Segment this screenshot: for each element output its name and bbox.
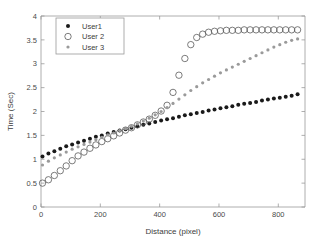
data-point	[205, 29, 211, 35]
data-point	[124, 127, 127, 130]
series-user1	[40, 92, 299, 158]
legend-label: User1	[82, 22, 102, 31]
x-tick-label: 200	[94, 210, 107, 219]
y-tick-label: 3.5	[27, 36, 37, 45]
legend-marker	[66, 45, 69, 48]
data-point	[165, 106, 168, 109]
data-point	[195, 111, 199, 115]
data-point	[171, 102, 174, 105]
data-point	[207, 109, 211, 113]
data-point	[194, 34, 200, 40]
data-point	[154, 113, 157, 116]
y-tick-label: 1.5	[27, 131, 37, 140]
legend-marker	[66, 24, 70, 28]
data-point	[106, 133, 109, 136]
data-point	[272, 45, 275, 48]
data-point	[76, 141, 80, 145]
data-point	[236, 103, 240, 107]
data-point	[177, 115, 181, 119]
data-point	[296, 37, 299, 40]
data-point	[195, 85, 198, 88]
data-point	[93, 142, 99, 148]
data-point	[171, 116, 175, 120]
data-point	[41, 163, 44, 166]
data-point	[183, 93, 186, 96]
y-tick-label: 4	[33, 12, 37, 21]
data-point	[63, 163, 69, 169]
series-user-3	[41, 37, 299, 166]
data-point	[64, 144, 68, 148]
data-point	[217, 28, 223, 34]
data-point	[153, 120, 157, 124]
data-point	[100, 136, 103, 139]
x-tick-label: 800	[272, 210, 285, 219]
data-point	[248, 101, 252, 105]
data-point	[99, 138, 105, 144]
data-point	[266, 98, 270, 102]
data-point	[290, 39, 293, 42]
data-point	[213, 108, 217, 112]
data-point	[70, 142, 74, 146]
data-point	[241, 27, 247, 33]
data-point	[266, 48, 269, 51]
chart-svg: 020040060080000.511.522.533.54 Distance …	[0, 0, 320, 245]
y-tick-label: 2	[33, 107, 37, 116]
data-point	[283, 27, 289, 33]
data-point	[53, 156, 56, 159]
data-point	[235, 27, 241, 33]
data-point	[170, 89, 176, 95]
data-point	[254, 54, 257, 57]
y-axis-title: Time (Sec)	[6, 92, 15, 131]
x-tick-label: 400	[153, 210, 166, 219]
data-point	[201, 81, 204, 84]
data-point	[76, 145, 79, 148]
data-point	[207, 78, 210, 81]
data-point	[159, 119, 163, 123]
y-tick-label: 1	[33, 155, 37, 164]
data-point	[65, 150, 68, 153]
legend-label: User 3	[82, 43, 104, 52]
legend[interactable]: User1User 2User 3	[56, 18, 124, 54]
data-point	[58, 147, 62, 151]
data-point	[265, 27, 271, 33]
data-point	[142, 119, 145, 122]
data-point	[88, 140, 91, 143]
data-point	[82, 143, 85, 146]
data-point	[219, 71, 222, 74]
data-point	[237, 63, 240, 66]
data-point	[177, 97, 180, 100]
data-point	[243, 60, 246, 63]
data-point	[47, 160, 50, 163]
data-point	[176, 72, 182, 78]
data-point	[82, 139, 86, 143]
data-point	[46, 152, 50, 156]
data-point	[148, 117, 151, 120]
data-point	[223, 27, 229, 33]
data-point	[189, 89, 192, 92]
data-point	[225, 68, 228, 71]
data-point	[211, 28, 217, 34]
data-point	[45, 177, 51, 183]
data-point	[71, 148, 74, 151]
data-point	[136, 122, 139, 125]
data-point	[296, 92, 300, 96]
data-point	[189, 112, 193, 116]
data-point	[94, 138, 97, 141]
data-point	[40, 154, 44, 158]
data-point	[271, 27, 277, 33]
y-tick-label: 2.5	[27, 83, 37, 92]
data-point	[87, 145, 93, 151]
data-point	[75, 153, 81, 159]
data-point	[277, 27, 283, 33]
data-point	[259, 27, 265, 33]
data-point	[284, 95, 288, 99]
data-point	[88, 137, 92, 141]
data-point	[112, 131, 115, 134]
data-point	[260, 51, 263, 54]
data-point	[288, 27, 294, 33]
data-point	[294, 27, 300, 33]
y-tick-label: 0	[33, 203, 37, 212]
data-point	[284, 41, 287, 44]
data-point	[272, 97, 276, 101]
data-point	[278, 43, 281, 46]
